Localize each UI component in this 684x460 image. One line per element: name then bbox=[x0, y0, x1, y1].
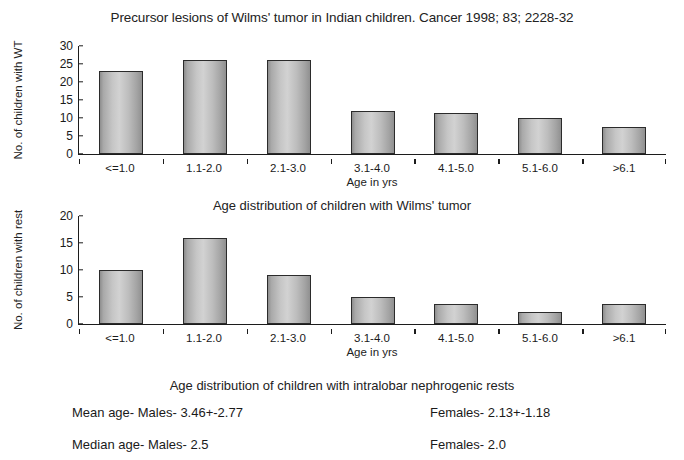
y-tick-label: 30 bbox=[60, 40, 79, 52]
x-tick-label: 3.1-4.0 bbox=[330, 162, 414, 174]
y-tick-label: 10 bbox=[60, 112, 79, 124]
chart-wilms-tumor: No. of children with WT 051015202530 <=1… bbox=[0, 46, 684, 188]
x-tick-label: >6.1 bbox=[582, 332, 666, 344]
bar[interactable] bbox=[602, 304, 646, 324]
bar-slot bbox=[414, 46, 498, 154]
x-tick-label: 2.1-3.0 bbox=[246, 162, 330, 174]
chart1-caption: Age distribution of children with Wilms'… bbox=[0, 198, 684, 213]
x-tick-label: >6.1 bbox=[582, 162, 666, 174]
x-tick-label: 4.1-5.0 bbox=[414, 332, 498, 344]
bar[interactable] bbox=[351, 111, 395, 154]
bar-slot bbox=[79, 46, 163, 154]
y-tick-label: 25 bbox=[60, 58, 79, 70]
chart1-x-tick-labels: <=1.01.1-2.02.1-3.03.1-4.04.1-5.05.1-6.0… bbox=[78, 155, 666, 174]
bar[interactable] bbox=[518, 312, 562, 324]
chart1-x-axis-label: Age in yrs bbox=[78, 174, 666, 188]
mean-age-females: Females- 2.13+-1.18 bbox=[430, 405, 550, 420]
y-tick-label: 5 bbox=[66, 291, 79, 303]
y-tick-label: 0 bbox=[66, 318, 79, 330]
chart2-x-axis-label: Age in yrs bbox=[78, 344, 666, 358]
chart1-bars bbox=[79, 46, 666, 154]
bar[interactable] bbox=[99, 270, 143, 324]
bar[interactable] bbox=[99, 71, 143, 154]
bar-slot bbox=[498, 46, 582, 154]
chart2-x-tick-labels: <=1.01.1-2.02.1-3.03.1-4.04.1-5.05.1-6.0… bbox=[78, 325, 666, 344]
bar-slot bbox=[498, 216, 582, 324]
chart2-bars bbox=[79, 216, 666, 324]
y-tick-label: 20 bbox=[60, 76, 79, 88]
bar-slot bbox=[79, 216, 163, 324]
bar-slot bbox=[247, 46, 331, 154]
chart1-y-axis-label: No. of children with WT bbox=[10, 46, 26, 154]
bar[interactable] bbox=[434, 113, 478, 154]
bar-slot bbox=[163, 46, 247, 154]
x-tick-label: 5.1-6.0 bbox=[498, 162, 582, 174]
bar-slot bbox=[414, 216, 498, 324]
chart2-caption: Age distribution of children with intral… bbox=[0, 378, 684, 393]
x-tick-label: 2.1-3.0 bbox=[246, 332, 330, 344]
bar-slot bbox=[247, 216, 331, 324]
bar-slot bbox=[582, 46, 666, 154]
chart-nephrogenic-rests: No. of children with rest 05101520 <=1.0… bbox=[0, 216, 684, 358]
x-tick-label: <=1.0 bbox=[78, 332, 162, 344]
y-tick-label: 10 bbox=[60, 264, 79, 276]
mean-age-males: Mean age- Males- 3.46+-2.77 bbox=[72, 405, 243, 420]
bar[interactable] bbox=[351, 297, 395, 324]
median-age-females: Females- 2.0 bbox=[430, 437, 506, 452]
y-tick-label: 5 bbox=[66, 130, 79, 142]
median-age-males: Median age- Males- 2.5 bbox=[72, 437, 209, 452]
chart1-plot-area: 051015202530 bbox=[78, 46, 666, 155]
bar[interactable] bbox=[518, 118, 562, 154]
bar[interactable] bbox=[602, 127, 646, 154]
bar-slot bbox=[331, 46, 415, 154]
bar-slot bbox=[582, 216, 666, 324]
x-tick-label: 4.1-5.0 bbox=[414, 162, 498, 174]
mean-age-stats: Mean age- Males- 3.46+-2.77 Females- 2.1… bbox=[0, 405, 684, 423]
chart2-y-axis-label: No. of children with rest bbox=[10, 216, 26, 324]
y-tick-label: 15 bbox=[60, 237, 79, 249]
x-tick-label: 1.1-2.0 bbox=[162, 162, 246, 174]
x-tick-label: <=1.0 bbox=[78, 162, 162, 174]
y-tick-label: 0 bbox=[66, 148, 79, 160]
y-tick-label: 15 bbox=[60, 94, 79, 106]
figure-title: Precursor lesions of Wilms' tumor in Ind… bbox=[0, 10, 684, 25]
bar-slot bbox=[331, 216, 415, 324]
x-tick-label: 5.1-6.0 bbox=[498, 332, 582, 344]
bar[interactable] bbox=[434, 304, 478, 324]
bar[interactable] bbox=[183, 60, 227, 154]
bar[interactable] bbox=[267, 275, 311, 324]
bar[interactable] bbox=[267, 60, 311, 154]
bar-slot bbox=[163, 216, 247, 324]
chart2-plot-area: 05101520 bbox=[78, 216, 666, 325]
bar[interactable] bbox=[183, 238, 227, 324]
x-tick-label: 3.1-4.0 bbox=[330, 332, 414, 344]
median-age-stats: Median age- Males- 2.5 Females- 2.0 bbox=[0, 437, 684, 455]
y-tick-label: 20 bbox=[60, 210, 79, 222]
x-tick-label: 1.1-2.0 bbox=[162, 332, 246, 344]
